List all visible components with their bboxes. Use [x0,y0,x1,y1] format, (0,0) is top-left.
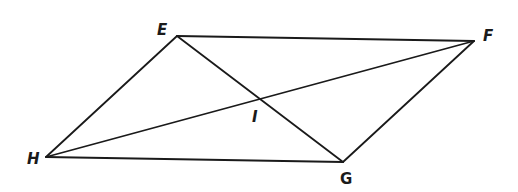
intersection-label-i: I [252,108,258,126]
parallelogram-diagram: E F G H I [0,0,518,192]
vertex-label-f: F [483,27,494,45]
side-ef [177,36,474,41]
diagonal-hf [46,41,474,157]
vertex-label-e: E [157,21,168,39]
side-gh [46,157,343,162]
vertex-label-g: G [340,170,352,188]
vertex-label-h: H [27,150,40,168]
diagram-svg: E F G H I [0,0,518,192]
